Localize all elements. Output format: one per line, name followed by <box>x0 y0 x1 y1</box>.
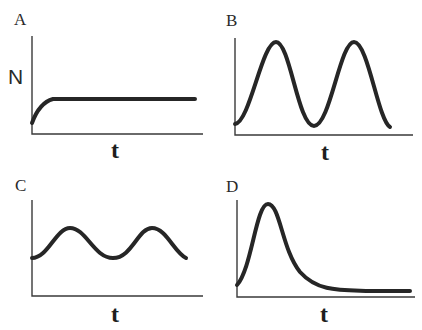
panel-b-label: B <box>226 11 237 30</box>
panel-a: A N t <box>8 10 203 163</box>
panel-d: D t <box>226 177 415 327</box>
panel-b-curve <box>235 42 390 127</box>
panel-d-curve <box>237 204 410 291</box>
panel-c-curve <box>32 228 186 258</box>
panel-d-x-axis-label: t <box>320 301 328 327</box>
panel-a-curve <box>32 99 195 123</box>
panel-a-x-axis-label: t <box>111 137 119 163</box>
figure-canvas: A N t B t C t D t <box>0 0 422 330</box>
panel-c-label: C <box>15 176 26 195</box>
panel-c-x-axis-label: t <box>111 301 119 327</box>
panel-a-axes <box>32 36 203 134</box>
panel-c: C t <box>15 176 203 327</box>
panel-b: B t <box>226 11 413 165</box>
panel-a-y-axis-label: N <box>8 65 23 88</box>
panel-d-axes <box>237 200 415 297</box>
panel-b-x-axis-label: t <box>321 139 329 165</box>
panel-a-label: A <box>14 10 27 29</box>
panel-d-label: D <box>226 177 238 196</box>
